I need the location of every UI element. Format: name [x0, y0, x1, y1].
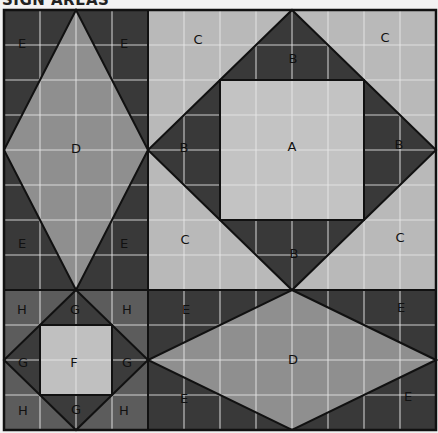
label-g: G	[122, 355, 132, 370]
label-g: G	[71, 402, 81, 417]
label-e: E	[397, 300, 405, 315]
label-d: D	[288, 352, 298, 367]
label-b: B	[289, 51, 298, 66]
label-c: C	[180, 232, 189, 247]
label-e: E	[18, 236, 26, 251]
label-c: C	[193, 32, 202, 47]
label-b: B	[180, 140, 189, 155]
label-c: C	[380, 30, 389, 45]
label-b: B	[395, 137, 404, 152]
label-h: H	[17, 302, 27, 317]
label-b: B	[290, 246, 299, 261]
label-a: A	[288, 139, 297, 154]
label-e: E	[182, 302, 190, 317]
label-e: E	[180, 391, 188, 406]
quilt-diagram: E E D E E C C B B A B C C B H G H G F G …	[0, 0, 438, 433]
label-f: F	[70, 355, 77, 370]
label-d: D	[71, 141, 81, 156]
label-e: E	[404, 389, 412, 404]
label-h: H	[122, 302, 132, 317]
label-g: G	[18, 355, 28, 370]
label-e: E	[18, 36, 26, 51]
label-h: H	[119, 403, 129, 418]
label-e: E	[120, 236, 128, 251]
label-e: E	[120, 36, 128, 51]
label-h: H	[18, 403, 28, 418]
label-c: C	[395, 230, 404, 245]
label-g: G	[70, 302, 80, 317]
